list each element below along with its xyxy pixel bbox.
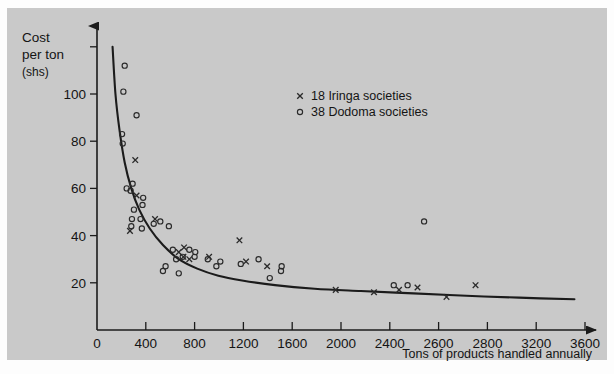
data-point-dodoma [267, 275, 272, 280]
data-point-dodoma [421, 219, 426, 224]
data-point-dodoma [129, 216, 134, 221]
y-axis-title-line-2: per ton [22, 47, 64, 62]
data-point-dodoma [158, 219, 163, 224]
data-point-dodoma [256, 257, 261, 262]
legend-entry-iringa: 18 Iringa societies [297, 89, 412, 103]
y-tick-label-100: 100 [63, 87, 86, 102]
series-iringa-societies [127, 157, 478, 299]
y-axis-ticks [90, 47, 97, 283]
scatter-chart: 20406080100 0400800120016002000240026002… [0, 0, 614, 374]
x-axis-ticks [146, 322, 585, 330]
data-point-dodoma [122, 63, 127, 68]
data-point-dodoma [124, 186, 129, 191]
y-axis-tick-labels: 20406080100 [63, 87, 86, 291]
x-tick-label-0: 0 [93, 336, 101, 351]
data-point-dodoma [160, 268, 165, 273]
data-point-dodoma [391, 283, 396, 288]
legend-label-iringa: 18 Iringa societies [311, 89, 412, 103]
chart-page: 20406080100 0400800120016002000240026002… [0, 0, 614, 374]
data-point-dodoma [151, 221, 156, 226]
data-point-dodoma [140, 202, 145, 207]
x-tick-label-2000: 2000 [326, 336, 356, 351]
y-axis-title-line-3: (shs) [22, 65, 49, 79]
data-point-dodoma [134, 113, 139, 118]
data-point-dodoma [170, 247, 175, 252]
legend-circle-icon [297, 109, 302, 114]
legend-marker-cross [297, 93, 303, 99]
data-point-dodoma [129, 224, 134, 229]
data-point-dodoma [131, 207, 136, 212]
y-tick-label-20: 20 [71, 276, 86, 291]
axes [97, 26, 596, 330]
data-point-dodoma [187, 247, 192, 252]
y-tick-label-40: 40 [71, 229, 86, 244]
data-point-dodoma [214, 264, 219, 269]
x-tick-label-1600: 1600 [277, 336, 307, 351]
x-tick-label-2400: 2400 [375, 336, 405, 351]
data-point-dodoma [405, 283, 410, 288]
data-point-dodoma [166, 224, 171, 229]
chart-legend: 18 Iringa societies 38 Dodoma societies [297, 89, 428, 119]
data-point-dodoma [218, 259, 223, 264]
data-point-dodoma [176, 271, 181, 276]
legend-marker-circle [297, 109, 302, 114]
data-point-dodoma [121, 89, 126, 94]
x-tick-label-400: 400 [135, 336, 158, 351]
x-axis-title: Tons of products handled annually [402, 347, 592, 361]
legend-label-dodoma: 38 Dodoma societies [311, 105, 428, 119]
data-point-dodoma [141, 195, 146, 200]
x-tick-label-800: 800 [183, 336, 206, 351]
fitted-cost-curve [113, 47, 575, 300]
data-point-dodoma [238, 261, 243, 266]
y-tick-label-60: 60 [71, 181, 86, 196]
legend-entry-dodoma: 38 Dodoma societies [297, 105, 427, 119]
y-tick-label-80: 80 [71, 134, 86, 149]
data-point-dodoma [139, 226, 144, 231]
y-axis-title: Cost per ton (shs) [22, 30, 64, 79]
y-axis-title-line-1: Cost [22, 30, 50, 45]
x-tick-label-1200: 1200 [228, 336, 258, 351]
data-point-dodoma [138, 216, 143, 221]
